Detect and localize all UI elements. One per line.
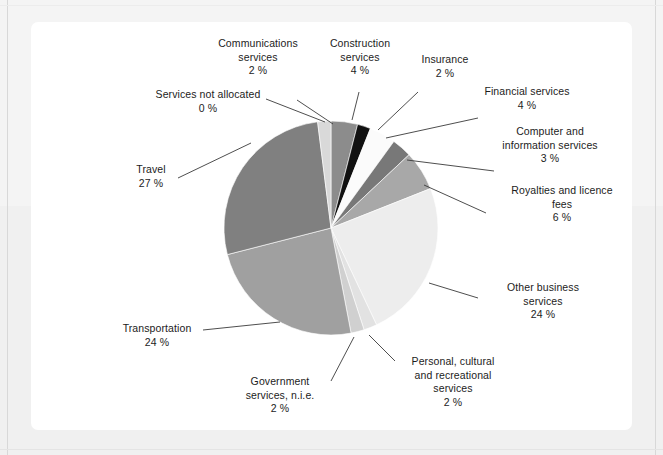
pie-label-construction-services: Construction services 4 % [314, 37, 406, 78]
leader-line-government-services [331, 337, 354, 381]
pie-label-personal-cultural-recreational: Personal, cultural and recreational serv… [396, 355, 510, 409]
pie-label-royalties-licence-fees: Royalties and licence fees 6 % [494, 184, 630, 225]
pie-label-other-business-services: Other business services 24 % [487, 281, 599, 322]
chart-figure: Communications services 2 % Construction… [0, 0, 663, 455]
leader-line-personal-cultural-recreational [369, 335, 395, 361]
leader-line-insurance [378, 92, 418, 130]
leader-line-financial-services [386, 118, 478, 138]
leader-line-communications-services [297, 100, 333, 124]
pie-label-financial-services: Financial services 4 % [471, 85, 583, 112]
pie-label-computer-information-services: Computer and information services 3 % [486, 125, 614, 166]
pie-label-communications-services: Communications services 2 % [198, 37, 318, 78]
leader-line-services-not-allocated [266, 99, 325, 122]
pie-label-services-not-allocated: Services not allocated 0 % [148, 88, 268, 115]
pie-label-insurance: Insurance 2 % [406, 53, 484, 80]
leader-line-construction-services [352, 92, 359, 120]
leader-line-other-business-services [429, 283, 478, 298]
pie-slice-group [224, 121, 438, 335]
pie-label-government-services: Government services, n.i.e. 2 % [228, 375, 332, 416]
leader-line-transportation [203, 322, 280, 330]
pie-label-transportation: Transportation 24 % [110, 322, 204, 349]
pie-label-travel: Travel 27 % [124, 163, 178, 190]
